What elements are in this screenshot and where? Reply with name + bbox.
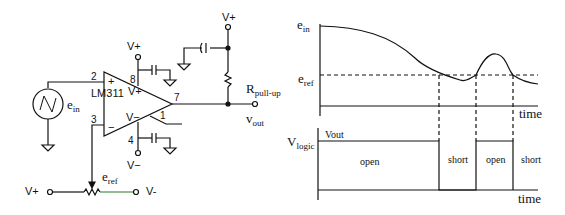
resistor-label: Rpull-up: [246, 82, 281, 98]
segment-open-1: open: [360, 157, 379, 167]
diagram-canvas: [0, 0, 565, 215]
pin-7: 7: [174, 93, 180, 103]
minus-input-symbol: −: [108, 122, 114, 133]
pin-2: 2: [91, 72, 97, 82]
eref-axis-label: eref: [298, 72, 314, 88]
pin-8: 8: [130, 75, 136, 85]
source-label: ein: [67, 98, 80, 114]
plus-input-symbol: +: [108, 76, 114, 87]
vplus-pin-label: V+: [128, 86, 142, 97]
resistor-icon: [225, 72, 231, 87]
potentiometer-icon: [84, 189, 100, 195]
segment-open-2: open: [486, 155, 505, 165]
ein-axis-label: ein: [297, 18, 310, 34]
pin-4: 4: [128, 136, 134, 146]
supply-vminus-label: V−: [127, 160, 141, 171]
output-supply-label: V+: [222, 12, 236, 23]
bottom-time-label: time: [518, 192, 541, 205]
vminus-pin-label: V−: [126, 112, 140, 123]
segment-short-2: short: [521, 155, 541, 165]
vlogic-waveform: [318, 141, 513, 190]
vlogic-axis-label: Vlogic: [287, 135, 314, 151]
top-time-label: time: [519, 107, 542, 120]
pot-vplus-label: V+: [25, 186, 39, 197]
supply-vplus-label: V+: [127, 41, 141, 52]
pin-1: 1: [160, 111, 166, 121]
segment-short-1: short: [448, 155, 468, 165]
eref-circuit-label: eref: [102, 170, 118, 186]
pin-3: 3: [91, 115, 97, 125]
ground-icon: [42, 145, 54, 151]
vout-level-label: Vout: [325, 130, 344, 140]
vout-label: vout: [246, 112, 264, 128]
pot-vminus-label: V-: [146, 186, 156, 197]
chip-label: LM311: [91, 88, 124, 99]
